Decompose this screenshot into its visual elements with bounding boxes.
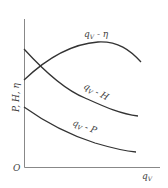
y-axis-label: P, H, η (11, 82, 21, 113)
origin-label: O (13, 163, 21, 173)
curve-head (24, 49, 138, 116)
label-power: qV - P (71, 117, 99, 136)
curve-efficiency (24, 42, 141, 80)
x-axis-label: qV (142, 171, 153, 182)
pump-performance-chart: qV - η qV - H qV - P P, H, η O qV (0, 0, 168, 188)
label-efficiency: qV - η (84, 29, 109, 40)
label-head: qV - H (82, 81, 111, 103)
